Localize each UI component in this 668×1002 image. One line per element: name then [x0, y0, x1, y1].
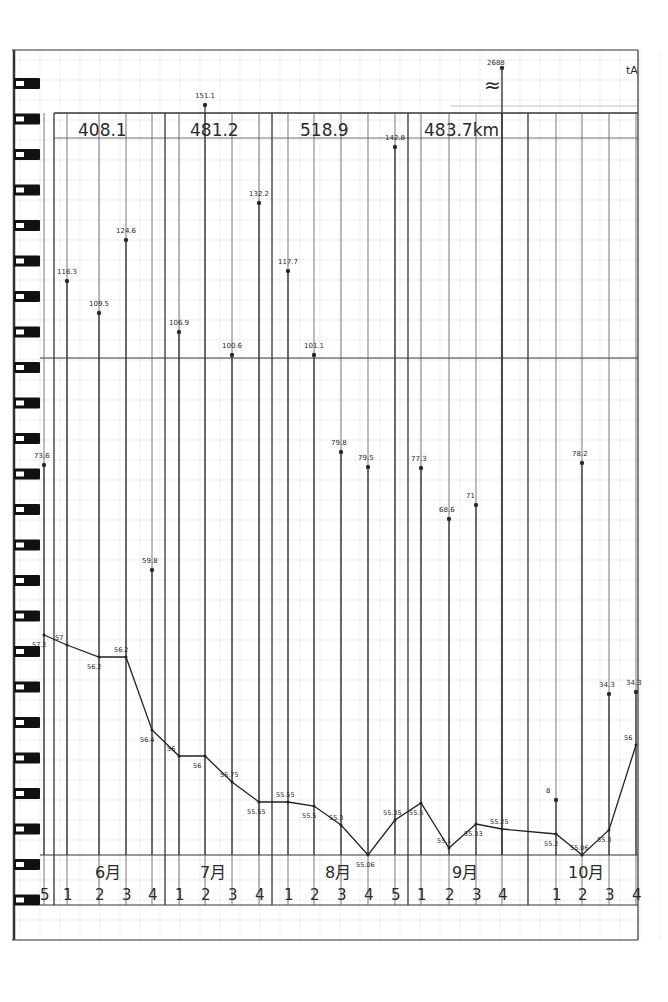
bar-value-label: 132.2 [249, 190, 269, 198]
bar-value-label: 77.3 [411, 455, 427, 463]
corner-mark: tA [626, 64, 638, 77]
bar-value-label: 100.6 [222, 342, 243, 350]
bar-value-label: 101.1 [304, 342, 324, 350]
weight-value-label: 55.1 [437, 837, 451, 845]
weight-value-label: 56.2 [87, 663, 101, 671]
week-label: 1 [284, 886, 294, 904]
week-label: 3 [228, 886, 238, 904]
weight-value-label: 55.3 [329, 814, 343, 822]
weight-value-label: 55.5 [302, 812, 316, 820]
total-august: 518.9 [300, 120, 349, 140]
week-label: 2 [95, 886, 105, 904]
weight-value-label: 55.25 [490, 818, 509, 826]
bar-value-label: 8 [546, 787, 550, 795]
weight-value-label: 56.2 [114, 646, 128, 654]
bar-value-label: 124.6 [116, 227, 137, 235]
leading-week-label: 5 [40, 886, 50, 904]
bar-value-label: 109.5 [89, 300, 109, 308]
month-august: 8月 [325, 863, 351, 882]
week-label: 4 [255, 886, 265, 904]
weight-value-label: 55.33 [464, 830, 483, 838]
bar-value-label: 34.3 [626, 679, 642, 687]
break-symbol-icon: ≈ [484, 73, 501, 97]
weight-value-label: 55.3 [597, 836, 611, 844]
total-june: 408.1 [78, 120, 127, 140]
top-annotation: 2688 [487, 59, 505, 67]
bar-value-label: 34.3 [599, 681, 615, 689]
weight-value-label: 56.4 [140, 736, 154, 744]
month-october: 10月 [568, 863, 604, 882]
weight-value-label: 56 [624, 734, 632, 742]
bar-value-label: 71 [466, 492, 475, 500]
weight-value-label: 55.55 [276, 791, 295, 799]
bar-value-label: 151.1 [195, 92, 215, 100]
bar-value-label: 79.5 [358, 454, 374, 462]
bar-value-label: 142.8 [385, 134, 405, 142]
week-label: 1 [175, 886, 185, 904]
week-label: 5 [391, 886, 401, 904]
total-september: 483.7km [424, 120, 499, 140]
week-label: 3 [122, 886, 132, 904]
bar-value-label: 78.2 [572, 450, 588, 458]
week-label: 1 [552, 886, 562, 904]
month-september: 9月 [452, 863, 478, 882]
weight-value-label: 55.06 [356, 861, 375, 869]
bar-value-label: 79.8 [331, 439, 347, 447]
week-label: 2 [310, 886, 320, 904]
month-june: 6月 [95, 863, 121, 882]
bar-value-label: 73.6 [34, 452, 50, 460]
week-label: 4 [632, 886, 642, 904]
weight-value-label: 56 [167, 745, 175, 753]
week-label: 4 [498, 886, 508, 904]
bar-value-label: 117.7 [278, 258, 298, 266]
weight-value-label: 55.75 [220, 771, 239, 779]
notebook-chart: 57.25756.256.256.4565655.7555.5555.5555.… [0, 0, 668, 1002]
bar-value-label: 68.6 [439, 506, 455, 514]
weight-value-label: 56 [193, 762, 201, 770]
week-label: 2 [201, 886, 211, 904]
weight-value-label: 55.55 [247, 808, 266, 816]
bar-value-label: 106.9 [169, 319, 189, 327]
weight-value-label: 55.2 [544, 840, 558, 848]
week-label: 4 [364, 886, 374, 904]
bar-value-label: 116.3 [57, 268, 77, 276]
weight-value-label: 55.06 [570, 844, 589, 852]
week-label: 4 [148, 886, 158, 904]
weight-value-label: 55.35 [383, 809, 402, 817]
weight-value-label: 55.5 [409, 809, 423, 817]
week-label: 1 [417, 886, 427, 904]
week-label: 2 [578, 886, 588, 904]
month-july: 7月 [200, 863, 226, 882]
bar-value-label: 59.8 [142, 557, 158, 565]
week-label: 1 [63, 886, 73, 904]
week-label: 3 [605, 886, 615, 904]
week-label: 2 [445, 886, 455, 904]
week-label: 3 [337, 886, 347, 904]
weight-value-label: 57 [55, 634, 63, 642]
week-label: 3 [472, 886, 482, 904]
total-july: 481.2 [190, 120, 239, 140]
